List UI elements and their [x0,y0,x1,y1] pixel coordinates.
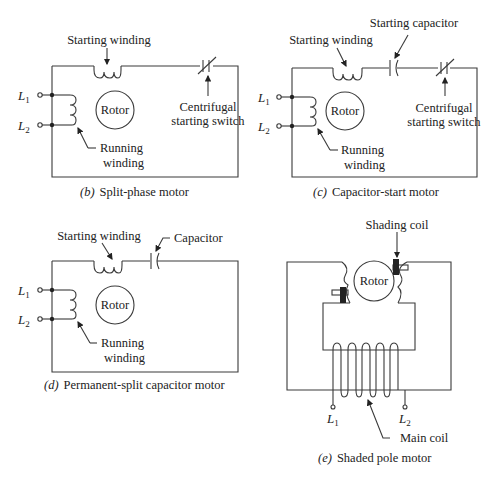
running-winding-label-line2: winding [104,351,146,365]
caption-e: (e)Shaded pole motor [318,451,432,465]
starting-winding-label: Starting winding [289,33,373,47]
main-coil-label: Main coil [400,431,449,445]
l2-label: L2 [398,411,411,428]
rotor-label: Rotor [101,298,130,312]
permanent-split-capacitor-motor-diagram: Rotor Starting winding Capacitor Running… [17,229,238,392]
starting-winding-coil [333,68,362,80]
starting-winding-label: Starting winding [67,33,151,47]
shading-coil-label: Shading coil [366,218,429,232]
running-winding-label: Running [341,143,385,157]
starting-capacitor-symbol [390,60,398,76]
rotor-label: Rotor [101,103,130,117]
l1-label: L1 [326,411,339,428]
l2-label: L2 [17,312,30,329]
l2-label: L2 [17,118,30,135]
running-winding-label: Running [101,336,145,350]
caption-b: (b)Split-phase motor [80,185,190,199]
centrifugal-switch-label-line2: starting switch [171,114,245,128]
running-winding-label: Running [100,141,144,155]
starting-winding-label: Starting winding [57,229,141,243]
main-coil [333,343,398,405]
capacitor-label: Capacitor [174,231,223,245]
l1-label: L1 [17,283,30,300]
rotor-label: Rotor [331,104,360,118]
rotor-label: Rotor [360,274,389,288]
running-winding-coil [70,290,76,319]
l1-label: L1 [17,88,30,105]
starting-winding-coil [94,66,121,78]
centrifugal-switch-label: Centrifugal [416,101,473,115]
caption-c: (c)Capacitor-start motor [313,185,440,199]
split-phase-motor-diagram: Rotor Starting winding Centrifugal start… [17,33,245,199]
motor-diagrams-figure: Rotor Starting winding Centrifugal start… [0,0,497,485]
caption-d: (d)Permanent-split capacitor motor [44,378,225,392]
running-winding-coil [310,97,316,126]
centrifugal-switch-label-line2: starting switch [407,115,481,129]
l2-label: L2 [257,119,270,136]
running-winding-label-line2: winding [103,156,145,170]
running-winding-coil [70,95,76,125]
starting-capacitor-label: Starting capacitor [370,16,459,30]
l1-label: L1 [257,90,270,107]
capacitor-start-motor-diagram: Rotor Starting winding Starting capacito… [257,16,481,199]
shading-coil-bottom [332,287,348,303]
starting-winding-coil [94,261,122,273]
centrifugal-switch-label: Centrifugal [180,100,237,114]
running-winding-label-line2: winding [344,158,386,172]
shaded-pole-motor-diagram: Rotor Shading coil [287,218,451,465]
